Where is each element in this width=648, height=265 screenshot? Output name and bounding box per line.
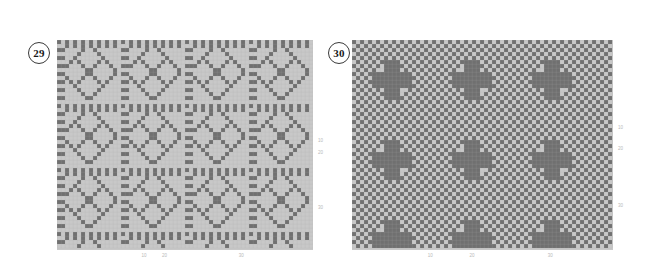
x-tick-label: 30 [548, 254, 553, 259]
figure-badge-29: 29 [28, 42, 50, 64]
x-tick-label: 10 [428, 254, 433, 259]
figure-badge-30: 30 [328, 42, 350, 64]
y-tick-label: 30 [318, 206, 323, 211]
weave-draft-canvas-30 [352, 40, 613, 250]
y-tick-label: 30 [618, 204, 623, 209]
weave-draft-grid-30 [352, 40, 613, 250]
x-tick-label: 30 [239, 254, 244, 259]
x-tick-label: 20 [470, 254, 475, 259]
weave-draft-canvas-29 [57, 40, 313, 250]
y-tick-label: 10 [318, 139, 323, 144]
x-tick-label: 20 [162, 254, 167, 259]
y-tick-label: 10 [618, 126, 623, 131]
x-tick-label: 10 [142, 254, 147, 259]
weave-draft-grid-29 [57, 40, 313, 250]
y-tick-label: 20 [318, 151, 323, 156]
y-tick-label: 20 [618, 147, 623, 152]
